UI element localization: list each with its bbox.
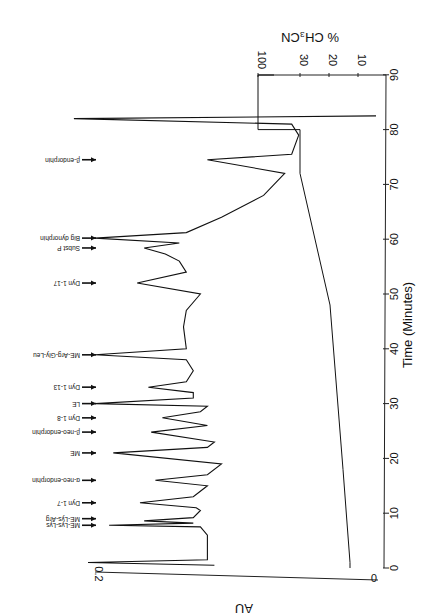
peak-annotation: ME [70, 450, 96, 457]
ch3cn-tick-label: 20 [327, 54, 339, 66]
time-tick-label: 40 [388, 343, 400, 355]
ch3cn-tick-label: 10 [356, 54, 368, 66]
peak-label: ME-Arg-Gly-Leu [33, 351, 80, 359]
ch3cn-axis-label: % CH₃CN [281, 30, 339, 45]
arrow-icon [91, 281, 96, 286]
peak-label: LE [71, 401, 80, 408]
gradient-trace [258, 75, 350, 568]
arrow-icon [91, 245, 96, 250]
peak-label: β-endorphin [45, 156, 80, 164]
peak-annotation: β-endorphin [45, 156, 96, 164]
time-axis-label: Time (Minutes) [400, 282, 415, 368]
arrow-icon [91, 516, 96, 521]
arrow-icon [91, 523, 96, 528]
arrow-icon [91, 236, 96, 241]
arrow-icon [91, 478, 96, 483]
peak-annotation: ME-Lys-Arg [46, 515, 96, 523]
au-axis-label: AU [235, 601, 253, 616]
peak-labels: ME-Lys-LysME-Lys-ArgDyn 1-7α-neo-endorph… [32, 156, 96, 530]
absorbance-trace [74, 116, 376, 565]
time-tick-label: 80 [388, 123, 400, 135]
au-zero-label: 0 [371, 572, 377, 584]
peak-label: ME [70, 450, 80, 457]
arrow-icon [91, 430, 96, 435]
peak-label: ME-Lys-Arg [46, 515, 80, 523]
peak-annotation: β-neo-endorphin [32, 428, 96, 436]
au-axis: 0 0.2 AU [93, 566, 378, 616]
peak-label: Dyn 1-7 [57, 499, 80, 507]
time-tick-label: 20 [388, 452, 400, 464]
ch3cn-tick-label: 30 [298, 54, 310, 66]
peak-label: β-neo-endorphin [32, 428, 80, 436]
time-tick-label: 30 [388, 397, 400, 409]
time-tick-label: 50 [388, 288, 400, 300]
peak-annotation: Dyn 1-17 [53, 279, 96, 287]
peak-annotation: Dyn 1-7 [57, 499, 96, 507]
peak-label: Dyn 1-17 [53, 279, 80, 287]
arrow-icon [91, 352, 96, 357]
peak-annotation: LE [71, 401, 96, 408]
peak-annotation: Dyn 1-13 [53, 383, 96, 391]
peak-annotation: Subst P [57, 245, 96, 252]
peak-label: Dyn 1-8 [57, 414, 80, 422]
arrow-icon [91, 500, 96, 505]
peak-annotation: ME-Arg-Gly-Leu [33, 351, 96, 359]
time-tick-label: 0 [388, 565, 400, 571]
time-axis: 0102030405060708090 Time (Minutes) [383, 69, 415, 571]
time-tick-label: 70 [388, 178, 400, 190]
time-tick-label: 10 [388, 507, 400, 519]
arrow-icon [91, 401, 96, 406]
peak-label: α-neo-endorphin [32, 476, 80, 484]
arrow-icon [91, 385, 96, 390]
arrow-icon [91, 157, 96, 162]
arrow-icon [91, 450, 96, 455]
peak-label: Dyn 1-13 [53, 383, 80, 391]
chromatogram-figure: 0102030405060708090 Time (Minutes) 0 0.2… [0, 0, 432, 616]
ch3cn-tick-label: 100 [256, 51, 268, 69]
peak-annotation: Big dynorphin [40, 234, 96, 242]
au-max-label: 0.2 [93, 566, 105, 581]
ch3cn-axis: 100302010 % CH₃CN [256, 30, 386, 77]
time-tick-label: 90 [388, 69, 400, 81]
time-tick-label: 60 [388, 233, 400, 245]
arrow-icon [91, 415, 96, 420]
peak-label: Subst P [57, 245, 80, 252]
peak-annotation: α-neo-endorphin [32, 476, 96, 484]
peak-label: Big dynorphin [40, 234, 80, 242]
peak-annotation: Dyn 1-8 [57, 414, 96, 422]
